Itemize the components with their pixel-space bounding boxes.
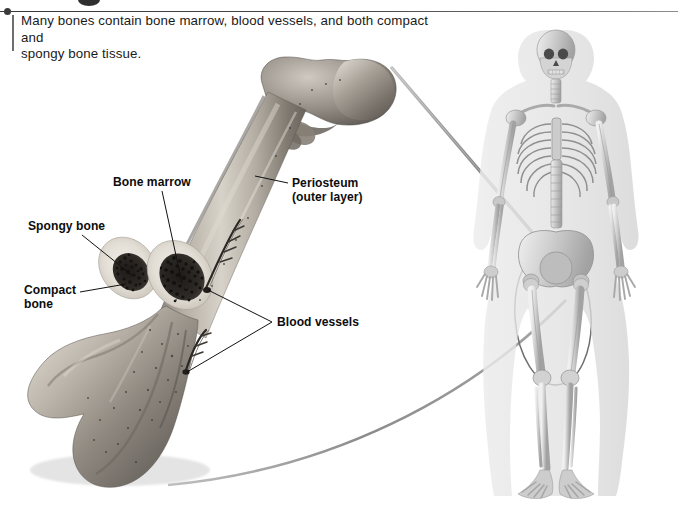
arm-left: [477, 124, 513, 300]
label-compact-bone: Compactbone: [24, 284, 76, 311]
femur-left: [532, 290, 541, 372]
bone-marrow-cavity: [150, 244, 214, 309]
pelvis: [518, 231, 593, 288]
upper-connector-line-taper: [392, 68, 566, 272]
label-compact-bone-line-1: Compact: [24, 283, 76, 297]
cervical-spine: [551, 79, 561, 103]
skeleton-illustration: [473, 30, 638, 499]
fibula-left: [536, 388, 541, 466]
enlarged-femur: [28, 57, 396, 487]
leader-blood-vessels-upper: [208, 290, 272, 322]
magnification-connectors: [168, 68, 596, 485]
upper-connector-line: [392, 68, 566, 272]
cut-face-right: [134, 227, 227, 322]
foot-right: [559, 470, 594, 499]
leader-blood-vessels-lower: [187, 322, 272, 372]
teeth: [548, 70, 564, 74]
blood-vessel-structures: [182, 219, 244, 375]
shoulder-right: [586, 110, 606, 126]
figure-artwork: [0, 0, 678, 508]
cut-face-left: [86, 225, 169, 310]
caption-line-1: Many bones contain bone marrow, blood ve…: [21, 13, 428, 45]
eye-socket-left: [544, 49, 554, 60]
shoulder-left: [506, 110, 526, 126]
caption-accent-bar: [12, 15, 14, 51]
bone-surface-speckles: [87, 329, 189, 463]
label-periosteum-line-1: Periosteum: [292, 176, 358, 190]
cut-cross-sections: [86, 225, 226, 322]
vertebral-column: [551, 160, 562, 228]
leg-right: [559, 279, 594, 499]
clipped-heading-glyph: [78, 0, 100, 6]
eye-socket-right: [558, 49, 568, 60]
fibula-right: [571, 388, 576, 466]
leader-bone-marrow: [162, 191, 182, 283]
spongy-bone-left: [105, 246, 156, 298]
label-compact-bone-line-2: bone: [24, 297, 53, 311]
label-spongy-bone: Spongy bone: [28, 220, 105, 234]
knee-right: [561, 370, 579, 386]
label-periosteum-line-2: (outer layer): [292, 190, 363, 204]
femur-proximal-end: [261, 57, 396, 154]
sternum: [552, 118, 561, 160]
femoral-neck: [264, 96, 340, 136]
arm-right: [599, 124, 635, 300]
figure-caption: Many bones contain bone marrow, blood ve…: [21, 13, 451, 63]
hip-socket-left: [523, 274, 539, 288]
leg-left: [518, 279, 553, 499]
label-bone-marrow: Bone marrow: [113, 176, 191, 190]
greater-trochanter: [261, 57, 396, 125]
femur-shaft: [160, 92, 306, 338]
figure-canvas: Many bones contain bone marrow, blood ve…: [0, 0, 678, 508]
label-periosteum: Periosteum(outer layer): [292, 177, 363, 204]
rib-cage: [517, 118, 596, 197]
blood-vessel-lower: [182, 330, 211, 375]
femur-right: [571, 290, 580, 372]
hand-left: [477, 266, 498, 300]
pelvic-inlet: [540, 252, 572, 284]
skull: [537, 30, 575, 79]
label-blood-vessels: Blood vessels: [277, 316, 359, 330]
blood-vessel-upper: [203, 219, 244, 293]
femoral-head: [333, 59, 394, 120]
leader-periosteum: [255, 176, 288, 183]
lower-connector-line: [168, 300, 566, 485]
body-silhouette: [473, 30, 638, 496]
shoulder-girdle: [506, 105, 606, 126]
knee-left: [533, 370, 551, 386]
tibia-left: [542, 386, 547, 468]
header-bullet-dot: [4, 8, 11, 15]
callout-leader-lines: [80, 176, 288, 372]
caption-line-2: spongy bone tissue.: [21, 46, 141, 61]
header-divider-rule: [0, 11, 678, 12]
hand-right: [614, 266, 635, 300]
leader-compact-bone: [80, 284, 126, 292]
nasal-aperture: [553, 60, 559, 66]
tibia-right: [565, 386, 570, 468]
hip-socket-right: [573, 274, 589, 288]
femur-highlight-ellipse: [510, 245, 595, 388]
foot-left: [518, 470, 553, 499]
leader-spongy-bone: [82, 235, 133, 276]
